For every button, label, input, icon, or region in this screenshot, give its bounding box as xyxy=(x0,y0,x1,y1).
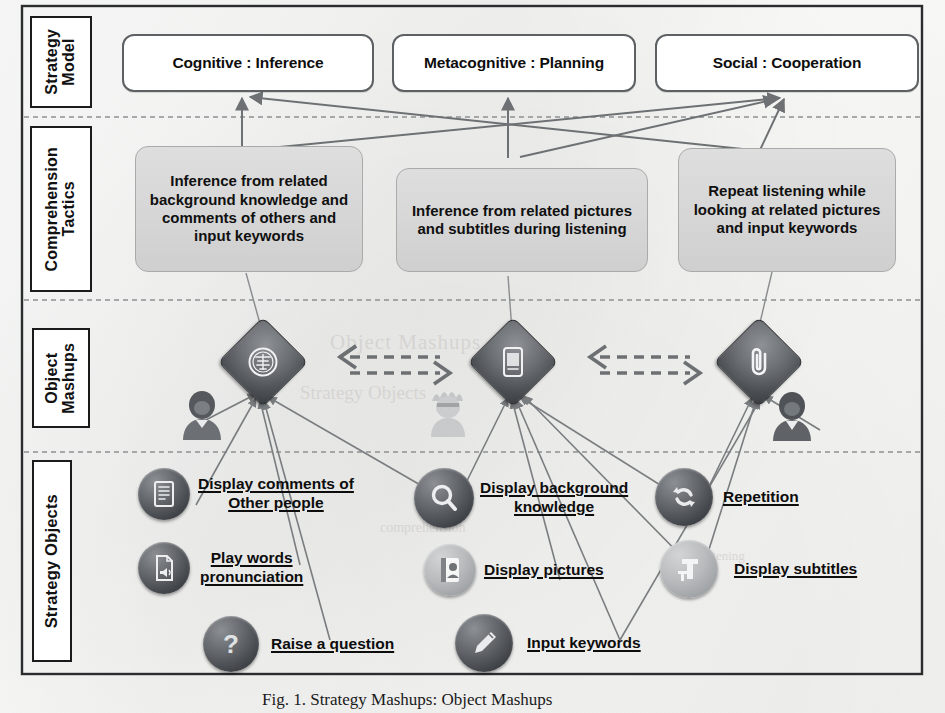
row-label-object-mashups: ObjectMashups xyxy=(32,328,90,428)
strategy-model-box-social-label: Social : Cooperation xyxy=(713,54,862,72)
strategy-model-box-social[interactable]: Social : Cooperation xyxy=(655,34,919,92)
mobile-document-icon xyxy=(482,331,544,393)
strategy-object-repetition-label: Repetition xyxy=(723,488,799,507)
strategy-object-display-subtitles-label: Display subtitles xyxy=(734,560,857,579)
paperclip-icon xyxy=(728,331,790,393)
strategy-object-display-subtitles[interactable]: Display subtitles xyxy=(660,540,857,598)
strategy-model-box-cognitive[interactable]: Cognitive : Inference xyxy=(122,34,374,92)
row-label-strategy-model-text: StrategyModel xyxy=(44,29,78,95)
connector-middle-right xyxy=(586,340,704,394)
contact-card-icon xyxy=(424,544,476,596)
tactic-box-right[interactable]: Repeat listening while looking at relate… xyxy=(678,148,896,272)
tactic-box-right-label: Repeat listening while looking at relate… xyxy=(687,182,887,237)
strategy-object-play-pronunciation[interactable]: Play words pronunciation xyxy=(138,542,303,594)
row-label-comprehension-tactics: ComprehensionTactics xyxy=(30,126,92,292)
strategy-object-display-comments-label: Display comments of Other people xyxy=(198,475,354,513)
row-label-comprehension-tactics-text: ComprehensionTactics xyxy=(44,147,78,271)
question-mark-icon: ? xyxy=(203,616,259,672)
tactic-box-middle[interactable]: Inference from related pictures and subt… xyxy=(396,168,648,272)
figure-canvas: Object Mashups Strategy Objects comprehe… xyxy=(0,0,945,713)
comment-book-icon xyxy=(138,468,190,520)
strategy-object-display-background[interactable]: Display background knowledge xyxy=(414,468,628,528)
strategy-model-box-metacognitive-label: Metacognitive : Planning xyxy=(424,54,604,72)
strategy-object-input-keywords[interactable]: Input keywords xyxy=(455,614,641,672)
stamp-seal-icon xyxy=(232,331,294,393)
strategy-object-display-background-label: Display background knowledge xyxy=(480,479,628,517)
row-label-object-mashups-text: ObjectMashups xyxy=(44,343,78,414)
strategy-object-raise-question[interactable]: ? Raise a question xyxy=(203,616,394,672)
row-label-strategy-objects: Strategy Objects xyxy=(32,460,72,662)
strategy-object-play-pronunciation-label: Play words pronunciation xyxy=(200,549,303,587)
strategy-model-box-cognitive-label: Cognitive : Inference xyxy=(172,54,323,72)
strategy-object-display-pictures-label: Display pictures xyxy=(484,561,604,580)
strategy-object-display-pictures[interactable]: Display pictures xyxy=(424,544,604,596)
person-middle xyxy=(420,385,476,449)
magnifier-icon xyxy=(414,468,474,528)
tactic-box-left-label: Inference from related background knowle… xyxy=(144,172,354,246)
tactic-box-middle-label: Inference from related pictures and subt… xyxy=(405,202,639,239)
row-label-strategy-objects-text: Strategy Objects xyxy=(43,494,60,628)
person-left xyxy=(176,388,228,448)
audio-page-icon xyxy=(138,542,190,594)
svg-text:?: ? xyxy=(223,629,239,659)
row-label-strategy-model: StrategyModel xyxy=(30,16,92,108)
strategy-object-repetition[interactable]: Repetition xyxy=(655,468,799,526)
strategy-object-raise-question-label: Raise a question xyxy=(271,635,394,654)
repeat-loop-icon xyxy=(655,468,713,526)
strategy-model-box-metacognitive[interactable]: Metacognitive : Planning xyxy=(392,34,636,92)
person-right xyxy=(766,390,818,450)
tactic-box-left[interactable]: Inference from related background knowle… xyxy=(135,146,363,272)
strategy-object-display-comments[interactable]: Display comments of Other people xyxy=(138,468,354,520)
figure-caption: Fig. 1. Strategy Mashups: Object Mashups xyxy=(262,690,552,710)
pen-icon xyxy=(455,614,513,672)
text-tool-icon xyxy=(660,540,718,598)
strategy-object-input-keywords-label: Input keywords xyxy=(527,634,641,653)
